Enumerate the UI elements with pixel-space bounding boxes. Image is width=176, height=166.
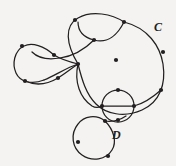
bottom-loop-D xyxy=(73,117,114,159)
vertex-inner-lens-right xyxy=(114,58,118,62)
vertex-inner-upper xyxy=(92,38,96,42)
vertex-right-lower xyxy=(159,88,163,92)
upper-inner-lens xyxy=(78,22,124,41)
vertex-circle-left xyxy=(100,104,104,108)
vertex-bottom-loop-left xyxy=(76,140,80,144)
vertex-left-loop-inner xyxy=(52,53,56,57)
large-outer-loop-C xyxy=(78,22,164,114)
vertex-left-loop-cross xyxy=(56,76,60,80)
curve-label-d: D xyxy=(112,129,121,141)
center-down-to-circle xyxy=(77,64,102,108)
left-loop-upper xyxy=(14,44,54,82)
vertex-right-upper xyxy=(161,50,165,54)
curve-label-c: C xyxy=(154,21,162,33)
left-loop-lower xyxy=(44,64,78,80)
vertex-circle-bottom xyxy=(116,118,120,122)
knot-diagram-canvas xyxy=(0,0,176,166)
vertex-left-loop-top xyxy=(20,44,24,48)
vertex-left-loop-bottom xyxy=(23,79,27,83)
knot-diagram-figure: C D xyxy=(0,0,176,166)
vertex-upper-right-crossing xyxy=(122,20,126,24)
curves-group xyxy=(14,14,164,160)
vertex-center-crossing xyxy=(76,62,80,66)
vertex-circle-top xyxy=(116,88,120,92)
vertex-bottom-loop-bottom xyxy=(106,154,110,158)
vertices-group xyxy=(20,18,165,158)
vertex-top xyxy=(73,18,77,22)
vertex-circle-right xyxy=(132,104,136,108)
inner-sweep-to-center xyxy=(32,40,94,59)
vertex-bottom-loop-cross xyxy=(103,119,107,123)
